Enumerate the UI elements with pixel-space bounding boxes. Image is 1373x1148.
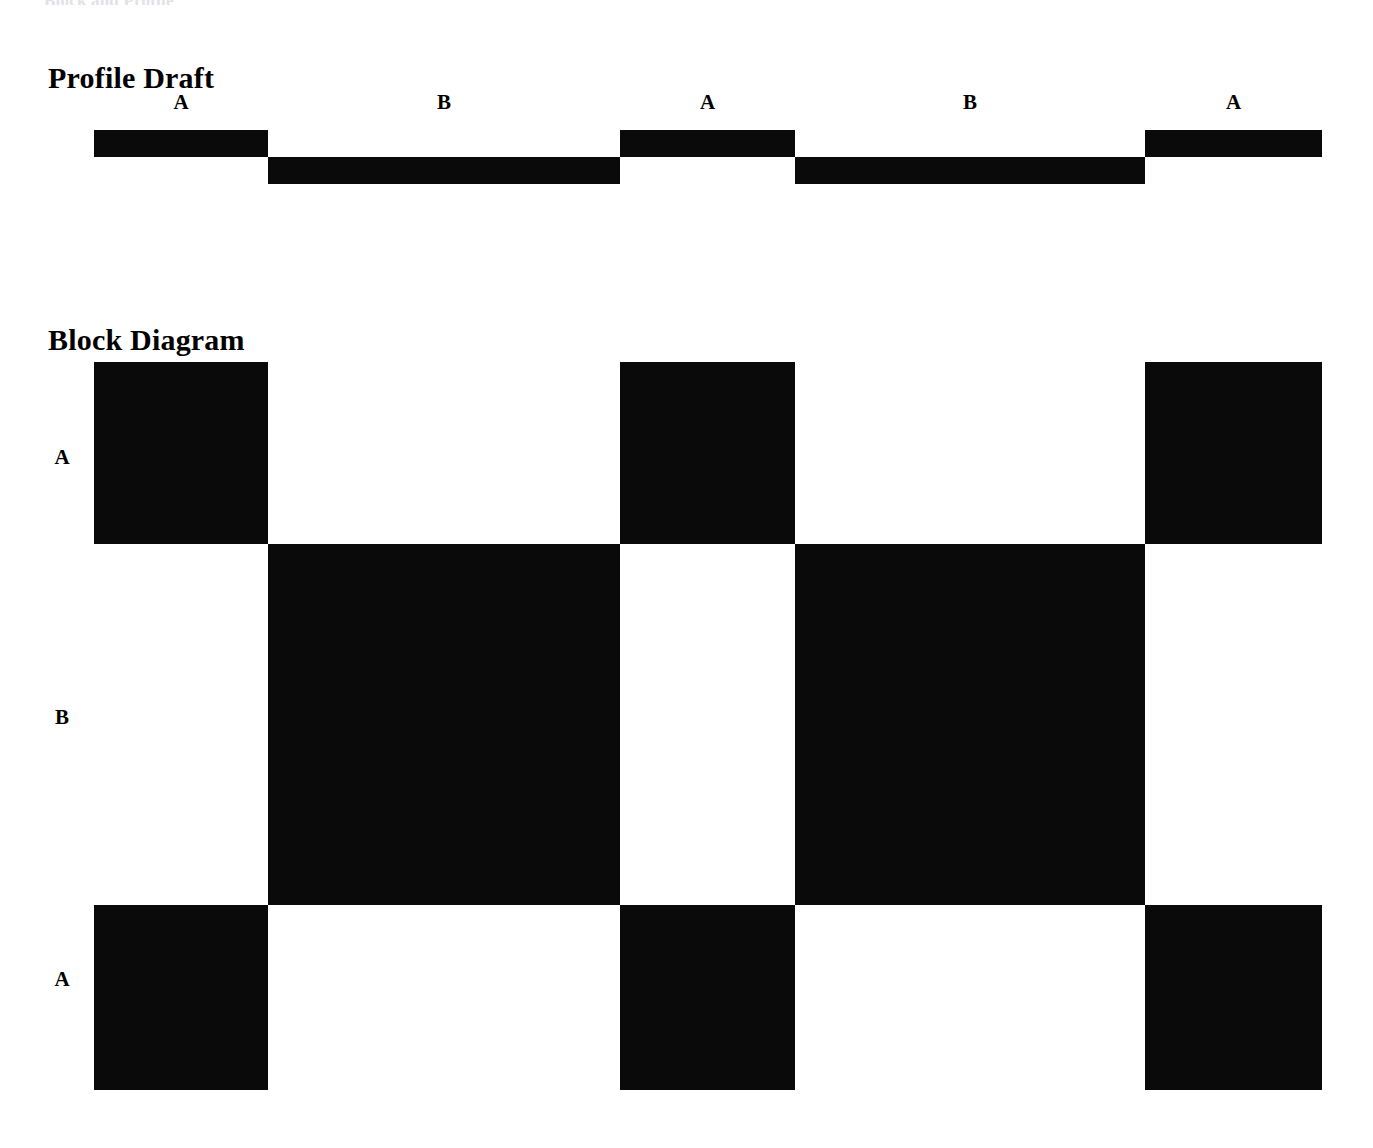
block-cell-r2-c5-empty	[1145, 544, 1322, 905]
block-cell-r2-c1-empty	[94, 544, 268, 905]
block-cell-r3-c3-filled	[620, 905, 795, 1090]
block-cell-r1-c4-empty	[795, 362, 1145, 544]
block-cell-r3-c2-empty	[268, 905, 620, 1090]
block-cell-r1-c3-filled	[620, 362, 795, 544]
page-canvas: Block and Profile Profile Draft ABABA Bl…	[0, 0, 1373, 1148]
block-cell-r2-c3-empty	[620, 544, 795, 905]
block-diagram-figure: ABA	[0, 0, 1373, 1148]
block-cell-r3-c5-filled	[1145, 905, 1322, 1090]
block-row-label-2: B	[50, 707, 74, 728]
block-cell-r2-c4-filled	[795, 544, 1145, 905]
block-cell-r3-c1-filled	[94, 905, 268, 1090]
block-cell-r2-c2-filled	[268, 544, 620, 905]
block-cell-r1-c5-filled	[1145, 362, 1322, 544]
block-cell-r3-c4-empty	[795, 905, 1145, 1090]
block-cell-r1-c1-filled	[94, 362, 268, 544]
block-cell-r1-c2-empty	[268, 362, 620, 544]
block-row-label-3: A	[50, 969, 74, 990]
block-row-label-1: A	[50, 447, 74, 468]
